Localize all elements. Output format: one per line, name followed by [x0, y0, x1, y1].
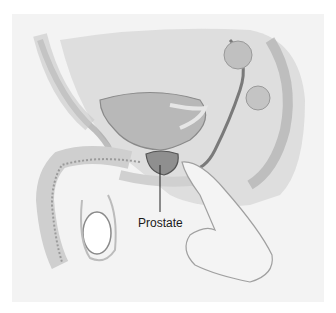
illustration-canvas: Prostate [0, 0, 336, 313]
colon-loop-2 [246, 86, 270, 110]
testis [83, 212, 111, 254]
anatomy-illustration [0, 0, 336, 313]
prostate-label: Prostate [138, 216, 183, 230]
colon-loop [224, 41, 252, 69]
